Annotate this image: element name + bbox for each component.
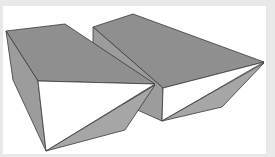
- left-wedge-front-face: [38, 81, 155, 151]
- wedges-diagram: [0, 0, 275, 157]
